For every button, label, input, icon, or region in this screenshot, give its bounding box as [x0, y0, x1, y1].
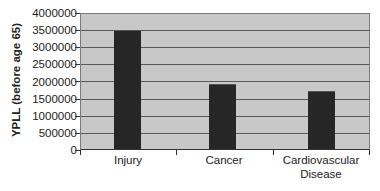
y-tick-label: 3500000: [7, 24, 77, 36]
y-tick-label: 1000000: [7, 110, 77, 122]
y-tick-label: 500000: [7, 127, 77, 139]
x-label-line2: Disease: [266, 167, 376, 181]
y-tick-label: 4000000: [7, 7, 77, 19]
y-tick-label: 2000000: [7, 76, 77, 88]
y-tick-label: 2500000: [7, 58, 77, 70]
y-tick-label: 3000000: [7, 41, 77, 53]
x-label-cardiovascular-disease: Cardiovascular Disease: [266, 153, 376, 181]
x-label-cancer: Cancer: [169, 153, 279, 167]
x-label-injury: Injury: [73, 153, 183, 167]
bar-cancer: [209, 84, 236, 149]
y-tick-label: 0: [7, 144, 77, 156]
bar-cardiovascular-disease: [308, 91, 335, 149]
plot-area: [80, 13, 370, 150]
y-tick-label: 1500000: [7, 93, 77, 105]
bar-injury: [114, 30, 141, 149]
x-label-line1: Cardiovascular: [266, 153, 376, 167]
